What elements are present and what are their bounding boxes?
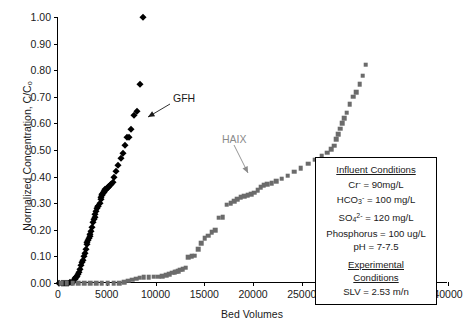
x-axis-tick-label: 40000 — [433, 288, 462, 300]
experimental-conditions-header-line1: Experimental — [320, 258, 432, 271]
data-point-haix — [64, 281, 69, 286]
data-point-haix — [354, 90, 359, 95]
y-axis-tick-label: 0.60 — [31, 117, 51, 129]
y-axis-tick-label: 0.50 — [31, 144, 51, 156]
data-point-haix — [332, 143, 337, 148]
data-point-haix — [59, 281, 64, 286]
data-point-haix — [334, 137, 339, 142]
influent-conditions-list: Cr- = 90mg/LHCO3- = 100 mg/LSO42- = 120 … — [320, 176, 432, 253]
annotation-label-haix: HAIX — [222, 133, 247, 145]
conditions-info-box: Influent Conditions Cr- = 90mg/LHCO3- = … — [315, 157, 437, 305]
data-point-haix — [342, 116, 347, 121]
x-axis-tick — [253, 282, 254, 286]
data-point-haix — [199, 241, 204, 246]
y-axis-tick — [54, 70, 58, 71]
data-point-haix — [213, 228, 218, 233]
data-point-gfh — [122, 141, 128, 147]
x-axis-tick — [204, 282, 205, 286]
data-point-haix — [336, 132, 341, 137]
y-axis-tick — [54, 44, 58, 45]
x-axis-tick-label: 20000 — [238, 288, 267, 300]
x-axis-title: Bed Volumes — [57, 308, 447, 320]
y-axis-tick-label: 0.80 — [31, 64, 51, 76]
data-point-haix — [70, 281, 75, 286]
slv-value: SLV = 2.53 m/n — [320, 285, 432, 298]
data-point-gfh — [115, 162, 121, 168]
y-axis-tick — [54, 230, 58, 231]
data-point-haix — [360, 73, 365, 78]
data-point-haix — [285, 173, 290, 178]
data-point-haix — [274, 179, 279, 184]
y-axis-tick-label: 0.30 — [31, 197, 51, 209]
x-axis-tick-label: 0 — [55, 288, 61, 300]
data-point-haix — [111, 281, 116, 286]
data-point-gfh — [140, 14, 146, 20]
y-axis-tick — [54, 256, 58, 257]
annotation-label-gfh: GFH — [173, 92, 195, 104]
data-point-haix — [292, 170, 297, 175]
data-point-haix — [344, 110, 349, 115]
x-axis-tick-label: 5000 — [95, 288, 118, 300]
data-point-haix — [196, 247, 201, 252]
y-axis-tick-label: 0.00 — [31, 277, 51, 289]
data-point-haix — [347, 102, 352, 107]
data-point-haix — [100, 281, 105, 286]
y-axis-tick — [54, 150, 58, 151]
y-axis-tick — [54, 123, 58, 124]
data-point-haix — [94, 281, 99, 286]
x-axis-tick — [156, 282, 157, 286]
influent-row-phosphorus: Phosphorus = 100 ug/L — [320, 227, 432, 240]
data-point-haix — [357, 82, 362, 87]
influent-row-hco3: HCO3- = 100 mg/L — [320, 191, 432, 209]
data-point-gfh — [137, 81, 143, 87]
y-axis-tick-label: 0.40 — [31, 171, 51, 183]
influent-conditions-header: Influent Conditions — [320, 163, 432, 176]
y-axis-title: Normalized Concentration, C/Cₒ — [21, 41, 33, 271]
data-point-haix — [340, 121, 345, 126]
data-point-haix — [82, 281, 87, 286]
x-axis-tick — [302, 282, 303, 286]
y-axis-tick — [54, 17, 58, 18]
experimental-conditions-header-line2: Conditions — [320, 271, 432, 284]
x-axis-tick — [448, 282, 449, 286]
influent-row-ph: pH = 7-7.5 — [320, 240, 432, 253]
data-point-haix — [351, 95, 356, 100]
x-axis-tick-label: 25000 — [287, 288, 316, 300]
data-point-haix — [105, 281, 110, 286]
data-point-haix — [192, 254, 197, 259]
data-point-haix — [363, 63, 368, 68]
y-axis-tick-label: 1.00 — [31, 11, 51, 23]
y-axis-tick-label: 0.90 — [31, 38, 51, 50]
x-axis-tick-label: 15000 — [190, 288, 219, 300]
influent-row-so4: SO42- = 120 mg/L — [320, 209, 432, 227]
data-point-haix — [338, 126, 343, 131]
data-point-haix — [298, 166, 303, 171]
y-axis-tick — [54, 97, 58, 98]
y-axis-tick — [54, 203, 58, 204]
breakthrough-curve-chart: 0.000.100.200.300.400.500.600.700.800.90… — [0, 0, 475, 333]
influent-row-cr: Cr- = 90mg/L — [320, 176, 432, 191]
data-point-haix — [279, 176, 284, 181]
y-axis-tick — [54, 177, 58, 178]
data-point-gfh — [128, 125, 134, 131]
data-point-haix — [183, 265, 188, 270]
data-point-haix — [220, 215, 225, 220]
x-axis-tick-label: 10000 — [141, 288, 170, 300]
data-point-haix — [76, 281, 81, 286]
y-axis-tick-label: 0.70 — [31, 91, 51, 103]
y-axis-tick-label: 0.20 — [31, 224, 51, 236]
y-axis-tick-label: 0.10 — [31, 250, 51, 262]
data-point-haix — [306, 162, 311, 167]
data-point-haix — [88, 281, 93, 286]
